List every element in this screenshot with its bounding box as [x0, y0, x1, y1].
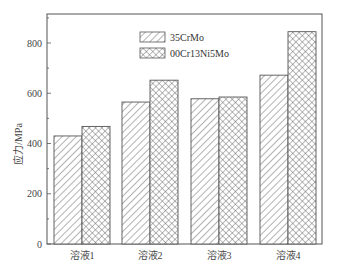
y-tick-label: 600 [27, 88, 42, 99]
bar-group [260, 32, 316, 244]
legend-swatch [140, 48, 165, 58]
legend-label: 35CrMo [170, 32, 204, 43]
legend-swatch [140, 32, 165, 42]
y-tick-label: 0 [37, 239, 42, 250]
bars [54, 32, 316, 244]
x-category-label: 溶液3 [207, 249, 232, 261]
x-category-label: 溶液1 [70, 249, 95, 261]
bar-group [54, 126, 110, 244]
bar-series-2 [82, 126, 110, 244]
bar-group [191, 97, 247, 244]
bar-group [122, 80, 178, 244]
bar-series-1 [122, 102, 150, 244]
bar-series-1 [54, 136, 82, 244]
legend: 35CrMo00Cr13Ni5Mo [140, 32, 229, 59]
y-tick-label: 400 [27, 138, 42, 149]
x-category-label: 溶液2 [138, 249, 163, 261]
bar-series-1 [260, 75, 288, 244]
bar-chart: 0200400600800 溶液1溶液2溶液3溶液4 35CrMo00Cr13N… [0, 0, 337, 274]
bar-series-2 [288, 32, 316, 244]
bar-series-2 [150, 80, 178, 244]
y-tick-label: 200 [27, 188, 42, 199]
y-tick-label: 800 [27, 38, 42, 49]
y-axis-label: 应力/MPa [12, 123, 24, 165]
bar-series-2 [219, 97, 247, 244]
x-axis: 溶液1溶液2溶液3溶液4 [70, 249, 301, 261]
legend-label: 00Cr13Ni5Mo [170, 48, 229, 59]
x-category-label: 溶液4 [276, 249, 301, 261]
bar-series-1 [191, 99, 219, 244]
